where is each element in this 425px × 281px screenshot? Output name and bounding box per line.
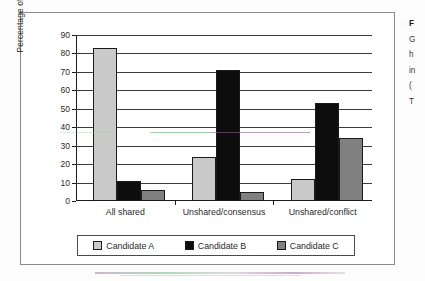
caption-line: G: [409, 32, 425, 48]
y-tick-mark: [72, 35, 76, 36]
gridline: [76, 53, 372, 54]
figure-frame: Percentage of groups 0102030405060708090…: [20, 12, 395, 265]
bar: [216, 70, 240, 201]
caption-line: T: [409, 94, 425, 110]
legend-label: Candidate A: [106, 241, 154, 251]
y-tick-mark: [72, 90, 76, 91]
bar: [339, 138, 363, 201]
legend-item: Candidate C: [277, 241, 339, 251]
y-tick-label: 70: [30, 67, 70, 77]
y-axis-title: Percentage of groups: [15, 0, 25, 71]
y-tick-mark: [72, 72, 76, 73]
category-label: Unshared/consensus: [183, 207, 266, 217]
bar: [117, 181, 141, 201]
legend-label: Candidate B: [198, 241, 246, 251]
bar: [315, 103, 339, 201]
category-label: All shared: [106, 207, 145, 217]
y-tick-label: 40: [30, 122, 70, 132]
scanned-page: Percentage of groups 0102030405060708090…: [0, 0, 425, 281]
y-tick-label: 30: [30, 141, 70, 151]
y-tick-label: 60: [30, 85, 70, 95]
chart-legend: Candidate ACandidate BCandidate C: [77, 235, 355, 256]
y-tick-mark: [72, 146, 76, 147]
y-tick-mark: [72, 53, 76, 54]
bar: [291, 179, 315, 201]
caption-line: h: [409, 47, 425, 63]
scan-artifact-band: [120, 275, 300, 276]
legend-swatch: [185, 241, 194, 250]
y-tick-label: 50: [30, 104, 70, 114]
category-tick: [273, 201, 274, 205]
legend-swatch: [277, 241, 286, 250]
y-tick-mark: [72, 164, 76, 165]
bar: [141, 190, 165, 201]
caption-line: F: [409, 16, 425, 32]
figure-caption: FGhin(T: [409, 16, 425, 110]
y-tick-mark: [72, 183, 76, 184]
gridline: [76, 35, 372, 36]
y-axis-line: [76, 35, 77, 201]
y-tick-label: 80: [30, 48, 70, 58]
legend-label: Candidate C: [290, 241, 339, 251]
category-label: Unshared/conflict: [289, 207, 357, 217]
caption-line: (: [409, 78, 425, 94]
legend-item: Candidate A: [93, 241, 154, 251]
y-tick-label: 20: [30, 159, 70, 169]
y-tick-mark: [72, 127, 76, 128]
bar: [93, 48, 117, 201]
y-tick-mark: [72, 109, 76, 110]
category-tick: [175, 201, 176, 205]
y-tick-label: 90: [30, 30, 70, 40]
y-tick-label: 10: [30, 178, 70, 188]
legend-swatch: [93, 241, 102, 250]
y-tick-label: 0: [30, 196, 70, 206]
bar: [240, 192, 264, 201]
legend-item: Candidate B: [185, 241, 246, 251]
scan-artifact-band: [95, 272, 345, 274]
bar: [192, 157, 216, 201]
plot-area: 0102030405060708090 All sharedUnshared/c…: [76, 35, 372, 201]
y-tick-mark: [72, 201, 76, 202]
caption-line: in: [409, 63, 425, 79]
